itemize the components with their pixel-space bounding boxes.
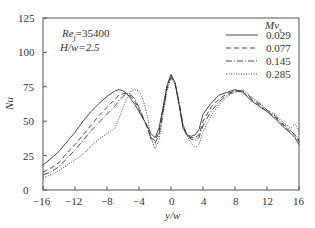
x-tick-label: 12: [262, 196, 273, 207]
x-tick-label: −12: [65, 196, 82, 207]
x-tick-label: 16: [293, 196, 304, 207]
legend-entry: 0.077: [266, 43, 291, 54]
x-tick-label: −4: [133, 196, 145, 207]
series-line-0.145: [43, 77, 299, 175]
x-tick-label: 0: [169, 196, 175, 207]
x-tick-label: 4: [201, 196, 207, 207]
x-tick-label: −8: [101, 196, 113, 207]
legend-lines: [226, 35, 258, 74]
x-tick-label: −16: [33, 196, 50, 207]
legend-entry: 0.029: [266, 30, 291, 41]
x-tick-label: 8: [233, 196, 239, 207]
series-line-0.029: [43, 74, 299, 165]
y-tick-label: 75: [23, 82, 34, 93]
x-axis-label: y/w: [165, 210, 180, 221]
legend-entry: 0.145: [266, 56, 291, 67]
series-line-0.285: [43, 79, 299, 178]
y-axis-label: Nu: [4, 97, 15, 110]
y-tick-label: 0: [23, 185, 29, 196]
y-tick-label: 100: [18, 47, 35, 58]
annotation-height-ratio: H/w=2.5: [60, 42, 100, 53]
y-tick-label: 50: [23, 116, 34, 127]
data-series: [43, 74, 299, 177]
y-tick-label: 25: [23, 151, 34, 162]
legend-entry: 0.285: [266, 69, 291, 80]
y-tick-label: 125: [18, 13, 35, 24]
